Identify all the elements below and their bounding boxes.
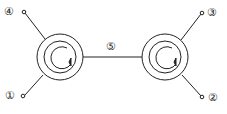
- lead-port4: [25, 13, 45, 39]
- left-rotation-arrow-icon: [51, 47, 71, 69]
- label-port4: ④: [4, 5, 14, 18]
- lead-port3: [181, 14, 201, 40]
- label-port3: ③: [207, 6, 217, 19]
- terminal-port3: [200, 11, 204, 15]
- label-port2: ②: [208, 91, 218, 104]
- terminal-port4: [22, 10, 26, 14]
- left-coil: [37, 34, 83, 80]
- terminal-port1: [21, 94, 25, 98]
- terminal-port2: [200, 95, 204, 99]
- label-port1: ①: [5, 89, 15, 102]
- lead-port1: [25, 75, 43, 95]
- diagram-canvas: ④ ① ③ ② ⑤: [0, 0, 227, 114]
- lead-port2: [182, 75, 201, 96]
- right-coil: [142, 34, 188, 80]
- label-link: ⑤: [106, 40, 116, 53]
- right-rotation-arrow-icon: [156, 47, 176, 69]
